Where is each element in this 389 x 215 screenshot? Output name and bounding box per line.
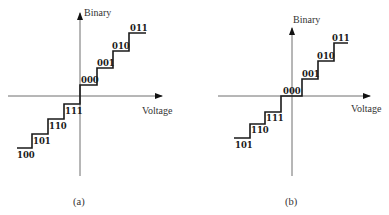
y-axis-label-a: Binary xyxy=(84,7,111,18)
code-label: 001 xyxy=(97,58,115,68)
code-label: 000 xyxy=(283,86,301,96)
y-axis-label-b: Binary xyxy=(293,14,320,25)
x-axis-label-b: Voltage xyxy=(351,103,382,114)
code-label: 101 xyxy=(33,136,51,146)
code-label: 011 xyxy=(332,33,350,43)
caption-b: (b) xyxy=(285,196,298,208)
code-label: 010 xyxy=(317,51,335,61)
code-label: 100 xyxy=(17,150,35,160)
diagram-b: Binary Voltage 000 001 010 011 111 110 1… xyxy=(218,14,382,208)
code-label: 101 xyxy=(235,140,253,150)
code-label: 110 xyxy=(251,125,269,135)
code-label: 111 xyxy=(65,106,83,116)
code-label: 110 xyxy=(49,121,67,131)
diagram-a: Binary Voltage 000 001 010 011 111 110 1… xyxy=(8,7,173,208)
code-label: 010 xyxy=(112,41,130,51)
x-axis-label-a: Voltage xyxy=(142,105,173,116)
code-label: 001 xyxy=(302,69,320,79)
caption-a: (a) xyxy=(73,196,85,208)
quantizer-figure: Binary Voltage 000 001 010 011 111 110 1… xyxy=(0,0,389,215)
code-label: 000 xyxy=(81,75,99,85)
code-label: 011 xyxy=(130,23,148,33)
code-label: 111 xyxy=(266,113,284,123)
